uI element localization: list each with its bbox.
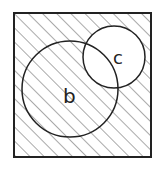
set-b-label: b: [63, 84, 76, 108]
venn-diagram: b c: [0, 0, 161, 170]
set-c-label: c: [113, 47, 123, 68]
